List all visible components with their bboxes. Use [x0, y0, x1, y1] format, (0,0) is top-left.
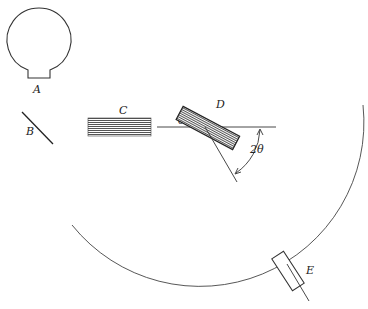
label-two-theta: 2θ [249, 143, 264, 156]
label-b: B [25, 125, 34, 138]
detector-E: E [272, 251, 314, 301]
label-c: C [119, 104, 128, 117]
diffraction-diagram: A B C θ D 2θ E [0, 0, 368, 309]
label-e: E [305, 264, 314, 277]
collimator-C: C [88, 104, 151, 136]
label-a: A [32, 83, 41, 96]
filter-B: B [22, 112, 53, 144]
crystal-D [176, 106, 240, 149]
label-d: D [215, 98, 225, 111]
xray-tube-A: A [7, 8, 71, 96]
